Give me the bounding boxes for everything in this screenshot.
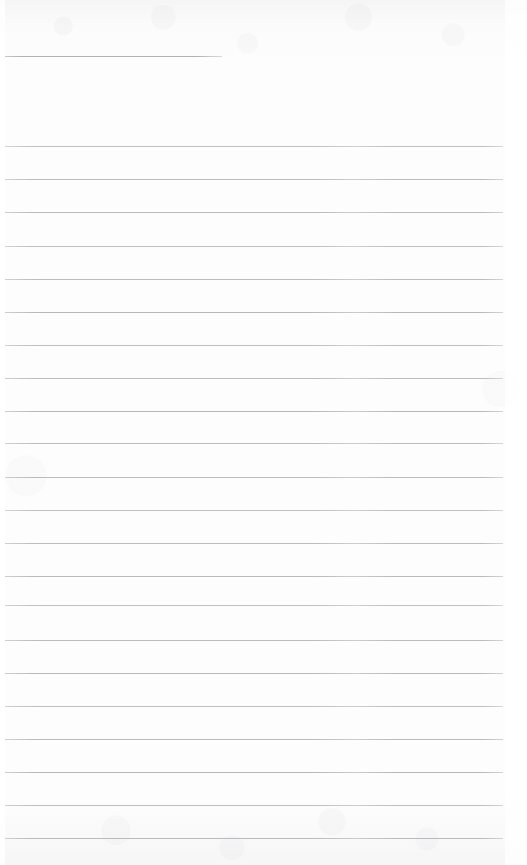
ruled-line: [5, 146, 503, 147]
ruled-line: [5, 739, 503, 740]
ruled-line: [5, 772, 503, 773]
ruled-line: [5, 279, 503, 280]
ruled-line: [5, 212, 503, 213]
ruled-line: [5, 706, 503, 707]
ruled-line: [5, 805, 503, 806]
ruled-line: [5, 543, 503, 544]
ruled-line: [5, 411, 503, 412]
scanned-page: [0, 0, 527, 865]
ruled-line: [5, 640, 503, 641]
paper-background: [0, 0, 527, 865]
header-rule: [5, 56, 222, 57]
ruled-line: [5, 576, 503, 577]
ruled-line: [5, 345, 503, 346]
ruled-line: [5, 673, 503, 674]
ruled-line: [5, 312, 503, 313]
ruled-line: [5, 838, 503, 839]
ruled-line: [5, 443, 503, 444]
ruled-line: [5, 510, 503, 511]
ruled-line: [5, 605, 503, 606]
ruled-line: [5, 246, 503, 247]
ruled-line: [5, 477, 503, 478]
ruled-line: [5, 378, 503, 379]
ruled-line: [5, 179, 503, 180]
